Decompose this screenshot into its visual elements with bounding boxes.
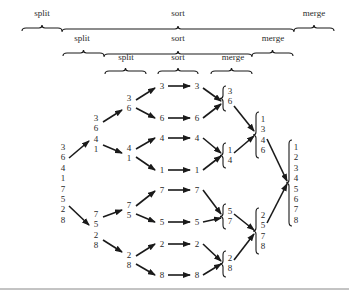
arrow <box>234 136 254 153</box>
label-sort-l3: sort <box>171 52 185 62</box>
label-merge-l1: merge <box>303 8 325 18</box>
arrow <box>136 264 155 275</box>
single-right: 4 <box>192 133 202 143</box>
arrow <box>136 138 155 149</box>
single-left: 6 <box>157 113 167 123</box>
arrow <box>103 210 122 217</box>
single-left: 2 <box>157 239 167 249</box>
arrow <box>136 191 155 206</box>
merge2-bottom: 2578 <box>258 210 268 252</box>
single-right: 6 <box>192 113 202 123</box>
arrow <box>234 214 254 230</box>
split1-bottom: 7528 <box>91 209 101 251</box>
arrow <box>203 104 221 118</box>
single-left: 3 <box>157 81 167 91</box>
single-right: 3 <box>192 81 202 91</box>
arrow <box>103 240 122 252</box>
group-brace <box>63 50 104 56</box>
arrow <box>203 138 221 153</box>
arrow <box>203 264 221 275</box>
input-list: 3641 7528 <box>58 142 68 225</box>
split2-a: 36 <box>124 93 134 114</box>
group-brace <box>22 25 62 31</box>
arrow <box>234 234 254 260</box>
arrow <box>203 244 221 261</box>
arrow <box>203 156 221 170</box>
group-brace <box>62 26 294 32</box>
arrow <box>203 88 221 101</box>
merge1-c: 57 <box>225 206 235 227</box>
label-split-l3: split <box>118 52 134 62</box>
split1-top: 3641 <box>91 113 101 155</box>
merge1-b: 14 <box>225 145 235 166</box>
single-right: 7 <box>192 185 202 195</box>
group-brace <box>158 68 198 74</box>
group-brace <box>105 68 146 74</box>
single-left: 7 <box>157 185 167 195</box>
label-sort-l1: sort <box>171 8 185 18</box>
label-merge-l2: merge <box>262 33 284 43</box>
group-brace <box>252 50 293 56</box>
single-left: 4 <box>157 133 167 143</box>
arrow <box>267 184 287 223</box>
arrow <box>267 139 287 181</box>
split2-c: 75 <box>124 200 134 221</box>
label-sort-l2: sort <box>171 33 185 43</box>
label-split-l1: split <box>34 8 50 18</box>
arrow <box>103 110 122 122</box>
merge1-d: 28 <box>225 253 235 274</box>
arrow <box>203 190 221 214</box>
arrow <box>136 88 155 100</box>
arrow <box>234 106 254 131</box>
single-right: 5 <box>192 217 202 227</box>
arrow <box>136 157 155 170</box>
group-brace <box>294 25 334 31</box>
label-merge-l3: merge <box>222 52 244 62</box>
merge2-top: 1346 <box>258 114 268 156</box>
merge-sort-diagram: split sort merge split sort merge split … <box>0 0 349 298</box>
split2-d: 28 <box>124 250 134 271</box>
single-right: 1 <box>192 165 202 175</box>
group-brace <box>211 68 252 74</box>
arrow <box>136 214 155 222</box>
arrow <box>136 244 155 256</box>
label-split-l2: split <box>74 33 90 43</box>
single-left: 1 <box>157 165 167 175</box>
arrow <box>136 108 155 118</box>
arrow <box>69 141 89 158</box>
single-left: 5 <box>157 217 167 227</box>
single-right: 2 <box>192 239 202 249</box>
arrow <box>203 218 221 222</box>
single-left: 8 <box>157 270 167 280</box>
arrow <box>69 206 89 225</box>
merge1-a: 36 <box>225 86 235 107</box>
output-list: 1234 5678 <box>291 142 301 225</box>
arrow <box>103 145 122 153</box>
split2-b: 41 <box>124 143 134 164</box>
single-right: 8 <box>192 270 202 280</box>
